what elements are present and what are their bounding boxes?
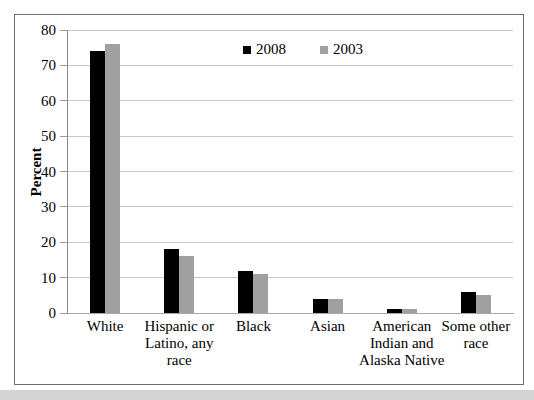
category-label-hispanic-or-latino-any-race: Hispanic or Latino, any race xyxy=(136,318,222,369)
figure-canvas: Percent 01020304050607080WhiteHispanic o… xyxy=(0,0,534,400)
bar-2008-american-indian-and-alaska-native xyxy=(387,309,402,313)
gridline-40 xyxy=(68,171,513,172)
y-tick-label-30: 30 xyxy=(16,198,56,216)
bar-2008-some-other-race xyxy=(461,292,476,313)
bar-2003-asian xyxy=(328,299,343,313)
y-tick-label-20: 20 xyxy=(16,233,56,251)
bar-2003-black xyxy=(253,274,268,313)
y-axis-line xyxy=(67,30,68,314)
y-tick-label-50: 50 xyxy=(16,127,56,145)
bottom-strip xyxy=(0,390,534,400)
legend-swatch-2008-icon xyxy=(243,46,251,54)
y-tick-label-0: 0 xyxy=(16,304,56,322)
bar-2003-american-indian-and-alaska-native xyxy=(402,309,417,313)
legend: 2008 2003 xyxy=(243,41,363,58)
plot-area: 01020304050607080WhiteHispanic or Latino… xyxy=(68,30,513,313)
y-tick-label-10: 10 xyxy=(16,269,56,287)
bar-2008-white xyxy=(90,51,105,313)
y-tick-label-70: 70 xyxy=(16,56,56,74)
legend-item-2003: 2003 xyxy=(320,41,363,58)
gridline-70 xyxy=(68,65,513,66)
bar-2003-white xyxy=(105,44,120,313)
category-label-asian: Asian xyxy=(285,318,371,335)
bar-2008-black xyxy=(238,271,253,313)
gridline-60 xyxy=(68,100,513,101)
x-axis-line xyxy=(68,313,514,314)
bar-2008-hispanic-or-latino-any-race xyxy=(164,249,179,313)
bar-2008-asian xyxy=(313,299,328,313)
gridline-20 xyxy=(68,242,513,243)
y-tick-label-40: 40 xyxy=(16,163,56,181)
legend-label-2008: 2008 xyxy=(256,41,286,58)
category-label-some-other-race: Some other race xyxy=(433,318,519,352)
legend-label-2003: 2003 xyxy=(333,41,363,58)
gridline-30 xyxy=(68,206,513,207)
gridline-80 xyxy=(68,30,513,31)
legend-item-2008: 2008 xyxy=(243,41,286,58)
category-label-white: White xyxy=(62,318,148,335)
y-tick-label-80: 80 xyxy=(16,21,56,39)
gridline-50 xyxy=(68,136,513,137)
chart-frame: Percent 01020304050607080WhiteHispanic o… xyxy=(14,14,524,385)
legend-swatch-2003-icon xyxy=(320,46,328,54)
bar-2003-hispanic-or-latino-any-race xyxy=(179,256,194,313)
y-tick-label-60: 60 xyxy=(16,92,56,110)
gridline-10 xyxy=(68,277,513,278)
category-label-black: Black xyxy=(210,318,296,335)
bar-2003-some-other-race xyxy=(476,295,491,313)
category-label-american-indian-and-alaska-native: American Indian and Alaska Native xyxy=(359,318,445,369)
